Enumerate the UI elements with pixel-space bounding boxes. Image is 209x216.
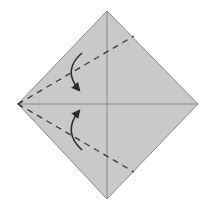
paper-square [18,11,198,199]
origami-diagram [0,0,209,216]
